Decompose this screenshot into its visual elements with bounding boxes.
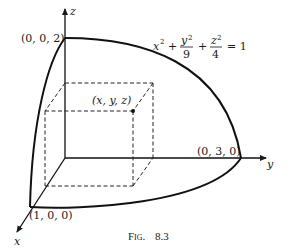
ellipsoid-xy-trace <box>30 158 241 208</box>
eq-y-num: y <box>180 34 188 47</box>
eq-z-num: z <box>210 34 217 47</box>
z-axis-label: z <box>69 5 76 18</box>
eq-x-exp: 2 <box>160 38 164 46</box>
eq-z-den: 4 <box>212 48 219 61</box>
y-intercept-label: (0, 3, 0) <box>197 145 241 158</box>
figure-caption-prefix: Fig. <box>128 230 146 242</box>
eq-equals-one: = 1 <box>227 40 247 53</box>
x-axis-label: x <box>14 235 21 248</box>
point-xyz-dot <box>131 109 135 113</box>
ellipsoid-xz-trace <box>30 38 65 207</box>
eq-plus-2: + <box>198 40 207 53</box>
point-xyz-label: (x, y, z) <box>92 94 131 107</box>
eq-x: x <box>153 40 160 53</box>
figure-caption-number: 8.3 <box>155 230 169 242</box>
eq-plus-1: + <box>168 40 177 53</box>
eq-z-exp: 2 <box>217 34 221 42</box>
x-intercept-label: (1, 0, 0) <box>29 209 73 222</box>
y-axis-label: y <box>266 158 274 171</box>
ellipsoid-octant-figure: z y x (0, 0, 2) (0, 3, 0) (1, 0, 0) (x, … <box>0 0 289 250</box>
z-intercept-label: (0, 0, 2) <box>21 32 65 45</box>
eq-y-exp: 2 <box>188 34 192 42</box>
eq-y-den: 9 <box>183 48 190 61</box>
